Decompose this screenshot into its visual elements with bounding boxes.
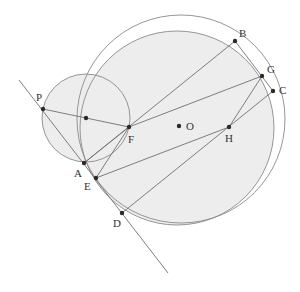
point-H xyxy=(227,125,231,129)
circles-layer xyxy=(42,15,285,225)
label-P: P xyxy=(36,91,42,103)
label-A: A xyxy=(74,167,82,179)
label-D: D xyxy=(113,217,121,229)
diagram-canvas: PFOAEDBGCH xyxy=(0,0,300,292)
label-E: E xyxy=(84,180,91,192)
label-F: F xyxy=(128,133,134,145)
label-G: G xyxy=(267,63,275,75)
point-D xyxy=(120,211,124,215)
point-E xyxy=(94,176,98,180)
point-G xyxy=(260,74,264,78)
point-B xyxy=(233,39,237,43)
label-C: C xyxy=(279,84,286,96)
geometry-diagram: PFOAEDBGCH xyxy=(0,0,300,292)
point-A xyxy=(82,161,86,165)
label-O: O xyxy=(186,120,194,132)
point-C xyxy=(271,89,275,93)
label-H: H xyxy=(225,132,233,144)
label-B: B xyxy=(239,27,246,39)
point-F xyxy=(127,125,131,129)
point-O xyxy=(177,124,181,128)
point-midpoint xyxy=(84,116,88,120)
point-P xyxy=(41,107,45,111)
